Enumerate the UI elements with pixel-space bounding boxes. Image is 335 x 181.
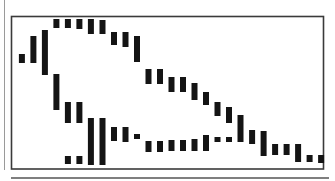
bar-upper-13-13 xyxy=(169,77,175,92)
bar-upper-17-17 xyxy=(215,102,221,116)
bar-upper-22-22 xyxy=(272,144,278,155)
bar-lower-5-4 xyxy=(76,156,82,164)
bar-upper-1-1 xyxy=(30,36,36,63)
bar-upper-10-10 xyxy=(134,36,140,62)
bar-upper-2-2 xyxy=(42,30,48,75)
bar-upper-4-4 xyxy=(65,19,71,28)
range-bar-chart xyxy=(0,0,335,181)
bar-lower-11-10 xyxy=(146,141,152,152)
bar-upper-25-25 xyxy=(307,155,313,162)
bar-lower-12-11 xyxy=(157,141,163,152)
bar-upper-20-20 xyxy=(249,130,255,144)
bar-upper-5-5 xyxy=(76,19,82,29)
bar-lower-3-0 xyxy=(53,74,59,110)
bar-lower-9-8 xyxy=(123,127,129,142)
bar-upper-16-16 xyxy=(203,92,209,105)
bar-upper-8-8 xyxy=(111,32,117,45)
bar-lower-4-2 xyxy=(65,156,71,164)
bar-lower-17-16 xyxy=(215,137,221,142)
bar-lower-6-5 xyxy=(88,118,94,165)
bar-lower-13-12 xyxy=(169,140,175,151)
bar-lower-16-15 xyxy=(203,135,209,151)
bar-upper-21-21 xyxy=(261,131,267,156)
bar-upper-18-18 xyxy=(226,107,232,123)
bar-upper-0-0 xyxy=(19,54,25,63)
bar-lower-14-13 xyxy=(180,140,186,151)
bar-upper-11-11 xyxy=(146,69,152,84)
bar-upper-14-14 xyxy=(180,77,186,92)
bar-upper-24-24 xyxy=(295,144,301,162)
bar-upper-19-19 xyxy=(238,115,244,142)
bar-lower-7-6 xyxy=(100,118,106,165)
bar-lower-4-1 xyxy=(65,102,71,123)
bar-lower-10-9 xyxy=(134,134,140,139)
bar-lower-5-3 xyxy=(76,102,82,123)
bar-upper-3-3 xyxy=(53,19,59,28)
bars-group xyxy=(19,19,324,165)
bar-lower-8-7 xyxy=(111,127,117,141)
bar-upper-15-15 xyxy=(192,83,198,100)
bar-upper-6-6 xyxy=(88,19,94,34)
bar-upper-7-7 xyxy=(100,20,106,34)
bar-lower-18-17 xyxy=(226,137,232,142)
bar-upper-9-9 xyxy=(123,32,129,47)
bar-upper-12-12 xyxy=(157,69,163,84)
bar-upper-23-23 xyxy=(284,144,290,155)
bar-upper-26-26 xyxy=(318,155,324,163)
bar-lower-15-14 xyxy=(192,139,198,151)
